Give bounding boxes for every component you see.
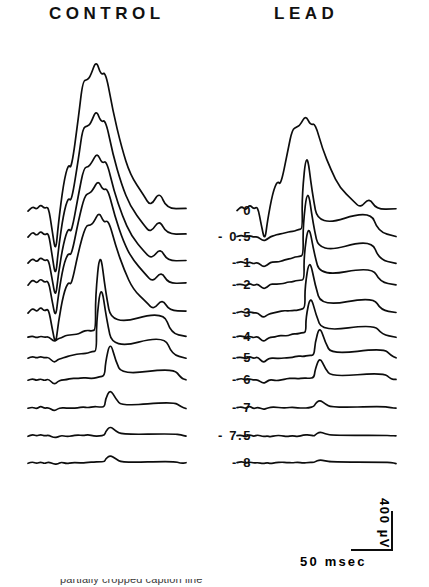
waveform-trace xyxy=(28,427,186,437)
depth-label: - 4 xyxy=(190,329,252,344)
waveform-trace xyxy=(28,456,186,464)
waveform-trace xyxy=(237,160,396,240)
caption-text: partially cropped caption line xyxy=(60,579,202,585)
depth-label: - 1 xyxy=(190,255,252,270)
waveform-trace xyxy=(237,330,396,362)
trace-plot-area xyxy=(0,0,429,587)
waveform-trace xyxy=(237,360,396,383)
waveform-trace xyxy=(28,346,186,383)
waveform-figure: CONTROL LEAD 0- 0.5- 1- 2- 3- 4- 5- 6- 7… xyxy=(0,0,429,587)
depth-label: - 3 xyxy=(190,305,252,320)
depth-label: - 6 xyxy=(190,372,252,387)
depth-label: - 7 xyxy=(190,400,252,415)
waveform-trace xyxy=(28,64,186,247)
waveform-trace xyxy=(237,195,396,266)
caption-strip: partially cropped caption line xyxy=(0,579,429,587)
waveform-trace xyxy=(237,432,396,436)
waveform-trace xyxy=(28,392,186,411)
scale-bar-y-label: 400 µV xyxy=(377,498,392,549)
waveform-trace xyxy=(237,118,396,237)
waveform-trace xyxy=(237,460,396,463)
depth-label: - 2 xyxy=(190,277,252,292)
waveform-trace xyxy=(28,113,186,272)
waveform-trace xyxy=(237,265,396,317)
depth-label: - 8 xyxy=(190,455,252,470)
depth-label: - 5 xyxy=(190,350,252,365)
depth-label: - 7.5 xyxy=(190,428,252,443)
depth-label: 0 xyxy=(190,203,252,218)
waveform-trace xyxy=(237,401,396,409)
depth-label: - 0.5 xyxy=(190,229,252,244)
scale-bar-x-label: 50 msec xyxy=(300,554,367,569)
